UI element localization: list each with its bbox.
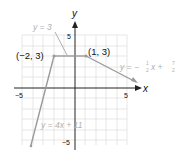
svg-text:y = −: y = − <box>119 62 139 72</box>
x-axis-arrow-icon <box>135 85 142 91</box>
point-label-b: (1, 3) <box>88 46 110 57</box>
y-axis-arrow-icon <box>72 21 78 28</box>
tick-x-5: 5 <box>124 92 128 99</box>
eq-label-steep: y = 4x + 11 <box>40 120 83 130</box>
eq-label-decreasing: y = − 1 2 x + 7 2 <box>119 60 175 73</box>
x-axis-label: x <box>142 83 149 94</box>
tick-x-neg5: −5 <box>15 92 23 99</box>
point-marker-a <box>53 55 56 58</box>
svg-text:7: 7 <box>172 60 175 66</box>
leader-y3 <box>55 32 67 55</box>
tick-y-neg5: −5 <box>62 139 70 146</box>
line-steep <box>31 56 54 145</box>
tick-y-5: 5 <box>67 33 71 40</box>
line-end-arrow-icon <box>131 77 138 83</box>
svg-text:x +: x + <box>150 62 163 72</box>
y-axis-label: y <box>71 8 78 19</box>
endpoint-dot <box>30 145 33 148</box>
svg-text:2: 2 <box>146 67 149 73</box>
eq-label-horizontal: y = 3 <box>32 22 52 32</box>
svg-text:2: 2 <box>172 67 175 73</box>
piecewise-graph: y x −5 5 5 −5 (−2, 3) (1, 3) y = 3 y = 4… <box>0 0 188 162</box>
point-label-a: (−2, 3) <box>16 50 44 61</box>
svg-text:1: 1 <box>146 60 149 66</box>
